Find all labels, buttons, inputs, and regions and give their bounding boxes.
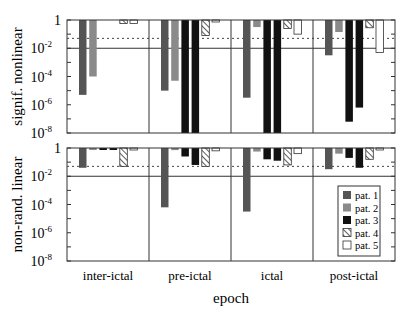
bar-pat-1-ictal [243,20,251,98]
bar-pat-3b-pre-ictal [192,20,200,133]
bar-pat-2-ictal [253,148,261,152]
bar-pat-2-ictal [253,20,261,27]
legend: pat. 1pat. 2pat. 3pat. 4pat. 5 [338,186,380,256]
legend-swatch-pat-5 [343,241,351,249]
y-tick-label: 1 [54,13,61,28]
bar-pat-5-inter-ictal [130,20,138,24]
bar-pat-2-post-ictal [335,148,343,154]
bar-pat-3b-ictal [274,148,282,161]
y-tick-label: 1 [54,141,61,156]
legend-swatch-pat-4 [343,229,351,237]
bar-pat-4-post-ictal [366,20,374,28]
legend-label-pat-3: pat. 3 [355,215,378,226]
bar-pat-4-pre-ictal [202,148,210,166]
bar-pat-3a-pre-ictal [181,20,189,133]
legend-label-pat-4: pat. 4 [355,228,379,239]
legend-swatch-pat-1 [343,191,351,199]
bar-pat-2-inter-ictal [89,20,97,77]
y-axis-title: non-rand. linear [9,157,25,253]
y-tick-label: 10-4 [31,68,53,85]
legend-swatch-pat-2 [343,204,351,212]
bar-pat-3b-ictal [274,20,282,133]
bar-pat-3a-ictal [263,20,271,133]
chart: 110-210-410-610-8signif. nonlinear110-21… [0,0,415,316]
bar-pat-1-post-ictal [325,148,333,169]
bar-pat-2-pre-ictal [171,20,179,81]
bar-pat-1-ictal [243,148,251,212]
bar-pat-5-ictal [294,148,302,154]
bar-pat-3a-ictal [263,148,271,159]
legend-label-pat-5: pat. 5 [355,240,378,251]
y-tick-label: 10-8 [31,124,53,141]
legend-label-pat-1: pat. 1 [355,190,378,201]
bar-pat-4-ictal [284,20,292,28]
x-tick-label-post-ictal: post-ictal [330,268,379,283]
bar-pat-4-ictal [284,148,292,165]
bar-pat-1-inter-ictal [79,148,87,168]
bar-pat-5-post-ictal [376,20,384,52]
legend-swatch-pat-3 [343,216,351,224]
y-tick-label: 10-6 [31,224,53,241]
bar-pat-1-pre-ictal [161,148,169,207]
x-tick-label-pre-ictal: pre-ictal [168,268,212,283]
bar-pat-2-post-ictal [335,20,343,32]
bar-pat-4-inter-ictal [120,148,128,166]
bar-pat-5-ictal [294,20,302,34]
legend-label-pat-2: pat. 2 [355,203,378,214]
bar-pat-3b-post-ictal [356,20,364,108]
panel-signif-nonlinear: 110-210-410-610-8signif. nonlinear [9,13,395,141]
panel-non-rand-linear: 110-210-410-610-8non-rand. linear [9,141,395,269]
bar-pat-3b-pre-ictal [192,148,200,165]
y-tick-label: 10-4 [31,196,53,213]
bar-pat-3a-pre-ictal [181,148,189,156]
bar-pat-4-inter-ictal [120,20,128,24]
x-axis-title: epoch [213,290,249,306]
bar-pat-1-inter-ictal [79,20,87,95]
y-axis-title: signif. nonlinear [9,27,25,125]
y-tick-label: 10-2 [31,39,53,56]
bar-pat-3b-post-ictal [356,148,364,168]
bar-pat-1-post-ictal [325,20,333,55]
x-tick-label-ictal: ictal [261,268,284,283]
bar-pat-3a-post-ictal [345,20,353,122]
bar-pat-4-pre-ictal [202,20,210,36]
bar-pat-3a-post-ictal [345,148,353,158]
bar-pat-1-pre-ictal [161,20,169,91]
y-tick-label: 10-6 [31,96,53,113]
x-tick-label-inter-ictal: inter-ictal [83,268,134,283]
y-tick-label: 10-8 [31,252,53,269]
y-tick-label: 10-2 [31,167,53,184]
bar-pat-4-post-ictal [366,148,374,159]
